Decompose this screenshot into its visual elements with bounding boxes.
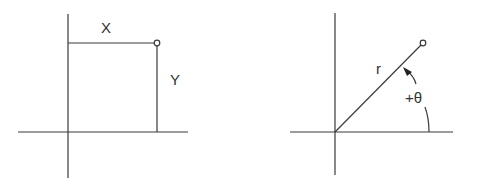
coordinate-systems-diagram: X Y r +θ (0, 0, 478, 190)
x-label: X (101, 19, 111, 36)
theta-arc-lower (425, 107, 429, 132)
cartesian-point-marker (154, 40, 160, 46)
polar-diagram (290, 13, 453, 175)
y-label: Y (170, 71, 180, 88)
polar-point-marker (420, 40, 426, 46)
cartesian-diagram (18, 14, 188, 178)
theta-label: +θ (405, 89, 422, 106)
r-label: r (376, 60, 381, 77)
